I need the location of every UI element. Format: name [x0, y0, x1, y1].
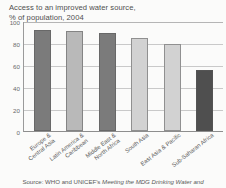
- chart-title-block: Access to an improved water source, % of…: [9, 3, 219, 22]
- y-tick-0: 0: [17, 129, 20, 136]
- x-label-latin-america-caribbean: Latin America & Caribbean: [48, 132, 89, 168]
- x-label-line: South Asia: [124, 132, 150, 155]
- bar-slot: [189, 22, 222, 131]
- bar-europe-central-asia: [34, 30, 51, 131]
- bar-slot: [59, 22, 92, 131]
- y-tick-20: 20: [13, 107, 20, 114]
- bar-slot: [156, 22, 189, 131]
- plot-wrapper: 100 80 60 40 20 0: [0, 22, 226, 132]
- bar-slot: [26, 22, 59, 131]
- y-tick-40: 40: [13, 85, 20, 92]
- chart-title: Access to an improved water source,: [9, 3, 219, 13]
- chart-subtitle: % of population, 2004: [9, 13, 219, 23]
- y-tick-80: 80: [13, 41, 20, 48]
- source-note: Source: WHO and UNICEF's Meeting the MDG…: [0, 178, 226, 185]
- y-axis: 100 80 60 40 20 0: [0, 22, 22, 132]
- x-axis-labels: Europe & Central Asia Latin America & Ca…: [23, 132, 223, 172]
- bar-slot: [124, 22, 157, 131]
- y-tick-60: 60: [13, 63, 20, 70]
- x-label-south-asia: South Asia: [124, 132, 150, 155]
- x-label-middle-east-north-africa: Middle East & North Africa: [85, 132, 122, 165]
- bar-south-asia: [131, 38, 148, 131]
- source-prefix: Source: WHO and UNICEF's: [22, 178, 102, 185]
- chart-figure: Access to an improved water source, % of…: [0, 0, 226, 188]
- source-title: Meeting the MDG Drinking Water and: [102, 178, 204, 185]
- bar-slot: [91, 22, 124, 131]
- y-tick-100: 100: [10, 19, 20, 26]
- bar-sub-saharan-africa: [196, 70, 213, 131]
- plot-area: [23, 22, 223, 132]
- bar-latin-america-caribbean: [66, 31, 83, 131]
- bar-series: [24, 22, 223, 131]
- bar-east-asia-pacific: [164, 44, 181, 131]
- bar-middle-east-north-africa: [99, 33, 116, 131]
- divider: [6, 173, 220, 174]
